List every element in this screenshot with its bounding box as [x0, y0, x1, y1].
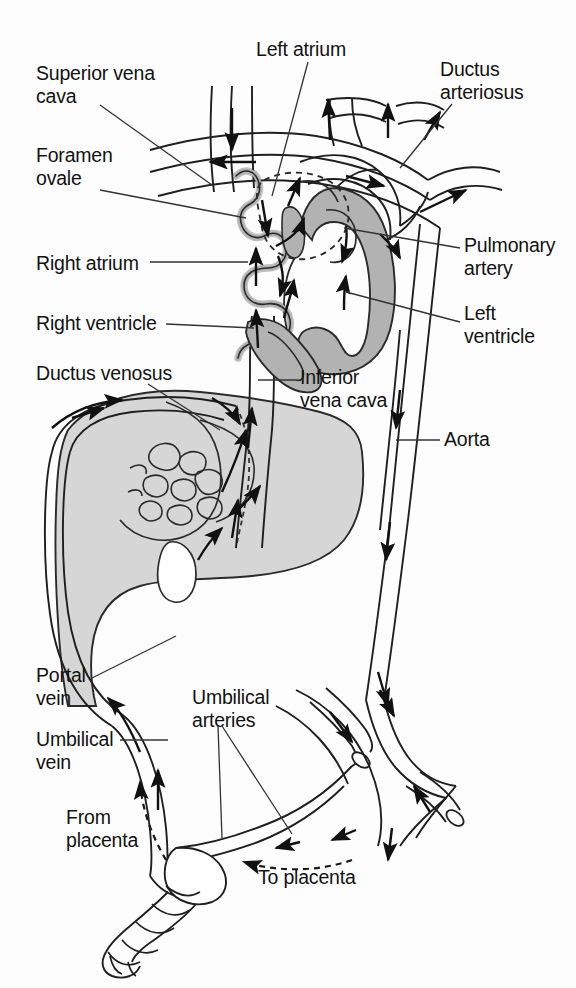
arrow-umb-artery-left-1 [276, 842, 300, 848]
leader-ductus-arteriosus [400, 104, 452, 168]
label-superior-vena-cava: Superior vena cava [36, 62, 155, 108]
label-pulmonary-artery: Pulmonary artery [464, 234, 555, 280]
heart-structure [236, 155, 428, 392]
pulmonary-valve [282, 207, 305, 258]
label-right-atrium: Right atrium [36, 252, 139, 275]
arrow-iliac-down-1 [330, 712, 352, 742]
label-umbilical-vein: Umbilical vein [36, 728, 113, 774]
leader-portal-vein [92, 636, 176, 678]
label-inferior-vena-cava: Inferior vena cava [300, 366, 387, 412]
label-aorta: Aorta [444, 428, 490, 451]
leader-umbilical-arteries-2 [222, 726, 292, 834]
label-left-ventricle: Left ventricle [464, 302, 535, 348]
label-from-placenta: From placenta [66, 806, 138, 852]
vessel-lumen-lower [443, 807, 466, 829]
umbilicus [165, 848, 226, 905]
leader-foramen-ovale [100, 190, 246, 218]
label-left-atrium: Left atrium [256, 38, 346, 61]
label-to-placenta: To placenta [258, 866, 356, 889]
umbilical-cord-structure [103, 848, 226, 978]
liver-body [56, 391, 364, 706]
arrow-into-left-atrium [288, 178, 300, 206]
label-foramen-ovale: Foramen ovale [36, 144, 113, 190]
arrow-umb-artery-left-2 [332, 830, 356, 840]
figure-canvas: Superior vena cava Left atrium Ductus ar… [0, 0, 576, 988]
label-right-ventricle: Right ventricle [36, 312, 157, 335]
leader-umbilical-arteries-1 [218, 726, 222, 838]
label-ductus-arteriosus: Ductus arteriosus [440, 58, 524, 104]
label-ductus-venosus: Ductus venosus [36, 362, 172, 385]
leader-left-atrium [272, 62, 308, 196]
label-portal-vein: Portal vein [36, 664, 86, 710]
leader-superior-vena-cava [100, 105, 212, 185]
leader-right-ventricle [166, 324, 254, 328]
arrow-lv-to-aorta [344, 276, 346, 310]
liver-structure [56, 391, 364, 706]
brachiocephalic-branches [326, 98, 444, 146]
label-umbilical-arteries: Umbilical arteries [192, 686, 269, 732]
arrow-iliac-down-3 [388, 828, 392, 860]
leader-left-ventricle [346, 292, 460, 322]
